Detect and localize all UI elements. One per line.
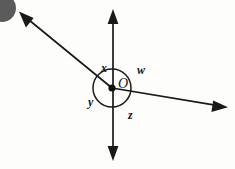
vertical-arrow-top-icon [108,9,119,24]
vertical-arrow-bottom-icon [108,146,119,161]
angle-label-y: y [88,96,93,108]
vertex-label-O: O [118,77,128,91]
angle-label-z: z [128,109,133,121]
angle-label-w: w [137,64,145,76]
oblique-line-upper-left [29,20,112,88]
vertex-point [108,84,115,91]
diagram-canvas: O x w y z [0,0,235,169]
oblique-arrow-right-icon [211,101,228,112]
oblique-arrow-upper-left-icon [19,12,34,28]
angle-label-x: x [101,62,107,74]
